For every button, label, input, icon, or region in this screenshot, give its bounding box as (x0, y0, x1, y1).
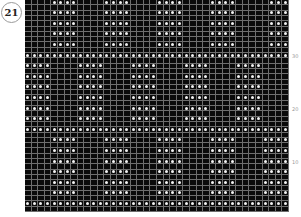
grid-cell (282, 207, 289, 212)
grid-cell (190, 207, 197, 212)
grid-cell (276, 207, 283, 212)
grid-cell (230, 207, 237, 212)
grid-cell (51, 207, 58, 212)
grid-cell (164, 207, 171, 212)
grid-cell (197, 207, 204, 212)
grid-cell (203, 207, 210, 212)
grid-cell (58, 207, 65, 212)
grid-cell (91, 207, 98, 212)
grid-cell (256, 207, 263, 212)
grid-cell (25, 207, 32, 212)
grid-cell (243, 207, 250, 212)
grid-cell (45, 207, 52, 212)
grid-cell (32, 207, 39, 212)
grid-cell (84, 207, 91, 212)
grid-cell (210, 207, 217, 212)
grid-cell (150, 207, 157, 212)
grid-cell (216, 207, 223, 212)
grid-cell (111, 207, 118, 212)
grid-cell (124, 207, 131, 212)
chart-number: 21 (5, 7, 19, 18)
grid-cell (71, 207, 78, 212)
grid-cell (104, 207, 111, 212)
grid-cell (223, 207, 230, 212)
row-label-20: 20 (292, 106, 301, 112)
grid-cell (78, 207, 85, 212)
grid-cell (65, 207, 72, 212)
pattern-grid (25, 0, 289, 212)
grid-cell (269, 207, 276, 212)
grid-cell (98, 207, 105, 212)
grid-cell (249, 207, 256, 212)
grid-cell (38, 207, 45, 212)
row-label-30: 30 (292, 53, 301, 59)
grid-cell (263, 207, 270, 212)
grid-cell (131, 207, 138, 212)
grid-cell (177, 207, 184, 212)
grid-cell (183, 207, 190, 212)
grid-cell (236, 207, 243, 212)
grid-cell (157, 207, 164, 212)
grid-cell (170, 207, 177, 212)
chart-number-badge: 21 (1, 2, 22, 23)
grid-cell (144, 207, 151, 212)
grid-cell (117, 207, 124, 212)
row-label-10: 10 (292, 159, 301, 165)
grid-cell (137, 207, 144, 212)
